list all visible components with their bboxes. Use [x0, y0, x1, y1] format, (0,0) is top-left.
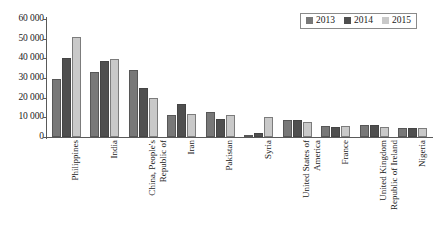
legend-label: 2014	[354, 16, 373, 26]
bar-group	[355, 19, 394, 137]
legend-swatch-icon	[382, 17, 389, 24]
x-tick-label: China, People's Republic of	[147, 140, 168, 245]
bar-group	[394, 19, 433, 137]
bar-2013	[321, 126, 330, 137]
legend: 201320142015	[300, 13, 417, 29]
bar-group	[124, 19, 163, 137]
y-tick-label: 0	[0, 132, 44, 142]
bar-group	[86, 19, 125, 137]
bar-2014	[370, 125, 379, 137]
bar-2015	[226, 115, 235, 137]
bar-2013	[398, 128, 407, 137]
bar-2013	[52, 79, 61, 137]
bar-group	[201, 19, 240, 137]
y-tick-label: 40 000	[0, 53, 44, 63]
legend-label: 2013	[316, 16, 335, 26]
x-axis-category-labels: PhilippinesIndiaChina, People's Republic…	[47, 140, 432, 249]
bar-2015	[418, 128, 427, 137]
bar-2014	[331, 127, 340, 137]
x-tick-label: Iran	[186, 140, 197, 245]
bar-2015	[264, 117, 273, 137]
bar-2013	[90, 72, 99, 137]
legend-label: 2015	[392, 16, 411, 26]
bar-2014	[177, 104, 186, 137]
bar-2014	[139, 88, 148, 137]
bar-group	[47, 19, 86, 137]
bar-2015	[110, 59, 119, 137]
bar-2015	[380, 127, 389, 137]
x-tick-label: Nigeria	[417, 140, 428, 245]
y-tick-label: 50 000	[0, 34, 44, 44]
bar-2013	[283, 120, 292, 137]
bar-2014	[100, 61, 109, 137]
bar-2015	[303, 122, 312, 137]
bar-2015	[72, 37, 81, 137]
x-tick-label: India	[109, 140, 120, 245]
y-tick-label: 20 000	[0, 93, 44, 103]
bar-2015	[149, 98, 158, 137]
bar-2015	[187, 114, 196, 137]
y-tick-label: 60 000	[0, 14, 44, 24]
x-tick-label: United States of America	[301, 140, 322, 245]
bar-group	[317, 19, 356, 137]
x-tick-label: France	[340, 140, 351, 245]
y-tick-label: 10 000	[0, 112, 44, 122]
bar-2014	[254, 133, 263, 137]
bar-2014	[62, 58, 71, 137]
bar-2013	[129, 70, 138, 137]
bar-group	[240, 19, 279, 137]
legend-item-2014[interactable]: 2014	[344, 16, 373, 26]
y-tick-label: 30 000	[0, 73, 44, 83]
legend-swatch-icon	[344, 17, 351, 24]
bar-chart: 60 00050 00040 00030 00020 00010 0000 Ph…	[0, 0, 442, 249]
bar-group	[163, 19, 202, 137]
x-tick-label: Pakistan	[224, 140, 235, 245]
x-tick-label: United Kingdom Republic of Ireland	[378, 140, 399, 245]
legend-item-2015[interactable]: 2015	[382, 16, 411, 26]
bar-2013	[167, 115, 176, 137]
x-tick-label: Philippines	[70, 140, 81, 245]
bar-2014	[216, 119, 225, 137]
bar-2014	[408, 128, 417, 137]
legend-item-2013[interactable]: 2013	[306, 16, 335, 26]
bar-2015	[341, 126, 350, 137]
plot-area	[47, 19, 432, 137]
legend-swatch-icon	[306, 17, 313, 24]
x-axis-line	[46, 137, 433, 138]
bar-group	[278, 19, 317, 137]
bar-2013	[244, 135, 253, 137]
y-axis-tick-labels: 60 00050 00040 00030 00020 00010 0000	[0, 0, 44, 249]
bar-2013	[206, 112, 215, 137]
x-tick-label: Syria	[263, 140, 274, 245]
bar-2014	[293, 120, 302, 137]
y-tick-mark	[43, 137, 47, 138]
bar-2013	[360, 125, 369, 137]
